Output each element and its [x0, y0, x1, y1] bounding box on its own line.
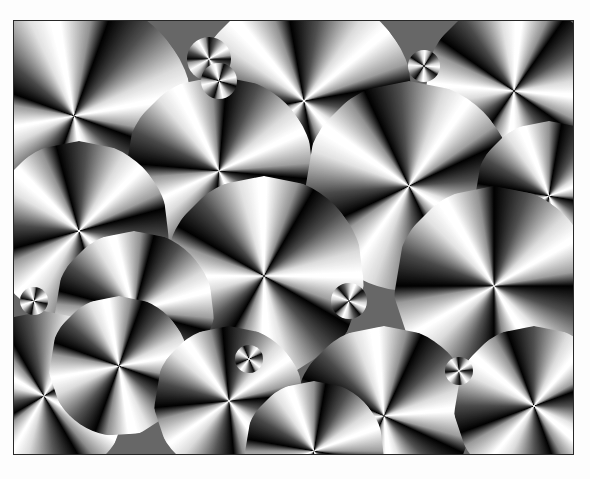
small-spherulite-cluster: [20, 287, 48, 315]
small-spherulite-cluster: [445, 357, 473, 385]
small-spherulite-cluster: [408, 50, 440, 82]
small-spherulite-cluster: [331, 283, 367, 319]
small-spherulite-cluster: [235, 345, 263, 373]
small-spherulite-cluster: [201, 63, 237, 99]
spherulite-micrograph: [13, 20, 574, 455]
